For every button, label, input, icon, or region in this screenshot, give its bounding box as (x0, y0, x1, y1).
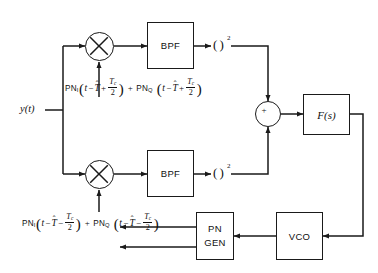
block-diagram: y(t) BPF BPF ( ) 2 ( ) 2 + F(s) PN (0, 0, 378, 273)
block-bpf-upper-label: BPF (161, 40, 180, 51)
equation-upper-pn2: PNQ (136, 84, 152, 93)
equation-upper-joiner: + (125, 83, 135, 93)
block-pn-gen: PN GEN (196, 212, 234, 260)
block-vco: VCO (276, 212, 323, 260)
equation-lower-sign-2: − (136, 218, 141, 228)
equation-lower-fraction-2: Tc2 (143, 213, 152, 232)
multiply-icon (86, 161, 112, 187)
summing-junction-plus: + (262, 106, 267, 115)
block-bpf-lower-label: BPF (161, 168, 180, 179)
squarer-lower-exponent: 2 (227, 163, 231, 170)
equation-lower-delay-2: ˆT (129, 218, 134, 228)
equation-upper-sign: + (101, 83, 106, 93)
summing-junction: + (255, 101, 281, 127)
equation-lower-fraction: Tc2 (65, 213, 74, 232)
equation-upper-sign-2: + (179, 83, 184, 93)
multiplier-lower (85, 160, 114, 189)
block-pn-gen-line1: PN (208, 222, 222, 236)
multiply-icon (86, 33, 112, 59)
equation-upper-fraction-2: Tc2 (186, 78, 195, 97)
equation-lower-close-paren-2: ) (154, 216, 159, 232)
equation-upper-delay: ˆT (95, 83, 100, 93)
squarer-lower-parens: ( ) (213, 166, 223, 179)
equation-upper-pn1: PNI (65, 84, 78, 93)
equation-lower-sign: − (58, 218, 63, 228)
wire-lower-square-to-summer (231, 127, 268, 174)
block-loop-filter-label: F(s) (317, 109, 335, 121)
equation-upper-open-paren-2: ( (153, 81, 162, 97)
equation-lower-branch: PNI(t−ˆT−Tc2) + PNQ (t−ˆT−Tc2) (22, 213, 159, 232)
equation-lower-var-2: t (119, 217, 122, 228)
equation-lower-delay: ˆT (52, 218, 57, 228)
equation-lower-minus: − (45, 218, 50, 228)
equation-lower-pn2: PNQ (93, 219, 109, 228)
equation-upper-delay-2: ˆT (172, 83, 177, 93)
equation-lower-open-paren-2: ( (110, 216, 119, 232)
wire-upper-square-to-summer (231, 46, 268, 101)
squarer-upper-exponent: 2 (227, 35, 231, 42)
block-bpf-upper: BPF (147, 22, 194, 69)
equation-lower-pn1: PNI (22, 219, 35, 228)
equation-lower-joiner: + (82, 218, 92, 228)
block-pn-gen-line2: GEN (204, 236, 226, 250)
equation-upper-branch: PNI(t−ˆT+Tc2) + PNQ (t−ˆT+Tc2) (65, 78, 202, 97)
block-loop-filter: F(s) (303, 94, 350, 135)
equation-upper-var: t (84, 82, 87, 93)
input-signal-label: y(t) (20, 103, 35, 114)
equation-lower-close-paren: ) (76, 216, 81, 232)
multiplier-upper (85, 32, 114, 61)
equation-upper-close-paren-2: ) (197, 81, 202, 97)
block-bpf-lower: BPF (147, 150, 194, 197)
equation-upper-fraction: Tc2 (108, 78, 117, 97)
equation-upper-close-paren: ) (119, 81, 124, 97)
equation-upper-minus: − (88, 83, 93, 93)
block-vco-label: VCO (289, 231, 311, 242)
equation-upper-var-2: t (162, 82, 165, 93)
squarer-upper-parens: ( ) (213, 38, 223, 51)
equation-lower-minus-2: − (123, 218, 128, 228)
equation-lower-var: t (41, 217, 44, 228)
equation-upper-minus-2: − (166, 83, 171, 93)
